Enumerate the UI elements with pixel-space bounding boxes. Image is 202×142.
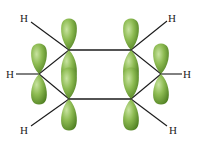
h-label-bottom-left: H bbox=[20, 124, 28, 136]
h-label-top-right: H bbox=[168, 12, 176, 24]
orbital-lobe-c2-lower bbox=[61, 99, 77, 131]
ring-bonds bbox=[39, 50, 161, 99]
h-label-right: H bbox=[183, 68, 191, 80]
h-label-left: H bbox=[6, 68, 14, 80]
p-orbitals bbox=[31, 19, 169, 131]
ch-bonds bbox=[16, 21, 182, 126]
h-label-top-left: H bbox=[20, 12, 28, 24]
ring-bond-overlay bbox=[69, 50, 131, 99]
benzene-p-orbital-diagram: H H H H H H bbox=[0, 0, 202, 142]
h-label-bottom-right: H bbox=[169, 124, 177, 136]
